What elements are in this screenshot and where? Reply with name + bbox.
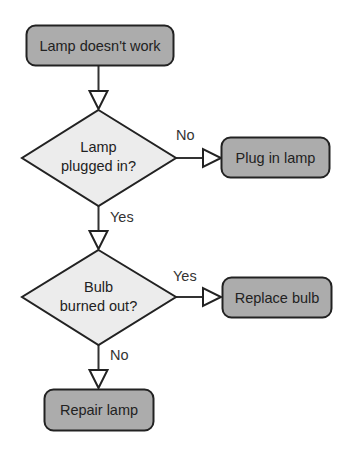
node-lamp-doesnt-work: Lamp doesn't work	[27, 26, 174, 66]
decision-label-line1: Bulb	[84, 279, 113, 295]
decision-lamp-plugged-in: Lamp plugged in?	[22, 110, 176, 206]
decision-bulb-burned-out: Bulb burned out?	[22, 250, 176, 345]
edge-decision2-to-repair: No	[90, 345, 129, 388]
node-label: Lamp doesn't work	[39, 38, 161, 54]
edge-label-yes: Yes	[173, 268, 197, 284]
edge-start-to-decision1	[90, 66, 108, 109]
flowchart-canvas: No Yes Yes No Lamp doesn't work Lamp plu…	[0, 0, 351, 454]
arrowhead-icon	[90, 370, 108, 388]
arrowhead-icon	[203, 288, 221, 306]
edge-label-no: No	[110, 347, 129, 363]
edge-decision1-to-decision2: Yes	[90, 206, 134, 249]
decision-label-line1: Lamp	[80, 139, 116, 155]
node-replace-bulb: Replace bulb	[223, 278, 332, 318]
node-label: Repair lamp	[60, 402, 138, 418]
arrowhead-icon	[90, 231, 108, 249]
edge-decision1-to-plug-in: No	[176, 127, 221, 167]
decision-label-line2: plugged in?	[61, 158, 136, 174]
arrowhead-icon	[203, 149, 221, 167]
node-label: Replace bulb	[235, 290, 320, 306]
node-plug-in-lamp: Plug in lamp	[222, 138, 330, 178]
edge-label-yes: Yes	[110, 209, 134, 225]
edge-decision2-to-replace: Yes	[173, 268, 221, 306]
node-repair-lamp: Repair lamp	[45, 390, 154, 431]
decision-label-line2: burned out?	[60, 298, 137, 314]
arrowhead-icon	[90, 91, 108, 109]
edge-label-no: No	[176, 127, 195, 143]
node-label: Plug in lamp	[236, 150, 316, 166]
